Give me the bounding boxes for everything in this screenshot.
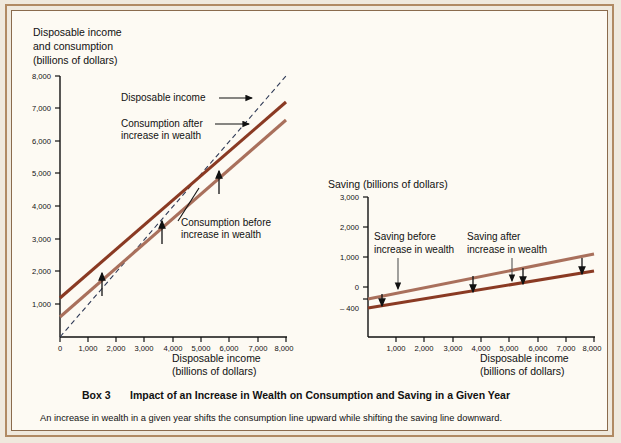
annotation-saving-after-line2: increase in wealth [467,244,547,255]
saving-shift-arrows [382,258,582,306]
saving-xtick-2000: 2,000 [414,344,433,353]
consumption-ytick-4000: 4,000 [32,202,51,211]
caption-title: Impact of an Increase in Wealth on Consu… [130,389,510,401]
annotation-disposable-income-label: Disposable income [121,92,206,103]
saving-xlabel-line2: (billions of dollars) [480,365,565,377]
consumption-ytick-3000: 3,000 [32,235,51,244]
saving-ytick-minus400: – 400 [340,304,359,313]
box-label: Box 3 [82,389,111,401]
consumption-xtick-8000: 8,000 [274,344,293,353]
consumption-xtick-2000: 2,000 [106,344,125,353]
consumption-ylabel-line3: (billions of dollars) [33,54,118,66]
saving-ytick-0: 0 [355,283,359,292]
saving-ytick-1000: 1,000 [340,253,359,262]
annotation-consumption-before-line1: Consumption before [181,217,271,228]
annotation-saving-after-line1: Saving after [467,231,521,242]
consumption-ytick-8000: 8,000 [32,72,51,81]
consumption-ytick-2000: 2,000 [32,267,51,276]
annotation-consumption-before-line2: increase in wealth [181,229,261,240]
saving-ylabel: Saving (billions of dollars) [328,178,448,190]
saving-xtick-3000: 3,000 [443,344,462,353]
saving-xlabel-line1: Disposable income [480,352,569,364]
consumption-ytick-6000: 6,000 [32,137,51,146]
consumption-xlabel-line1: Disposable income [172,352,261,364]
series-disposable-income-line [60,76,286,337]
annotation-consumption-after-line2: increase in wealth [121,130,201,141]
consumption-y-ticks: 8,000 7,000 6,000 5,000 4,000 3,000 2,00… [32,72,60,309]
saving-ytick-3000: 3,000 [340,193,359,202]
consumption-ylabel-line2: and consumption [33,40,113,52]
consumption-xlabel-line2: (billions of dollars) [172,365,257,377]
saving-xtick-1000: 1,000 [386,344,405,353]
caption-subtitle: An increase in wealth in a given year sh… [40,413,502,423]
consumption-xtick-0: 0 [58,344,62,353]
consumption-xtick-3000: 3,000 [134,344,153,353]
consumption-xtick-1000: 1,000 [78,344,97,353]
chart-consumption: Disposable income and consumption (billi… [32,26,294,377]
figure-caption: Box 3 Impact of an Increase in Wealth on… [40,389,510,423]
saving-x-ticks: 1,000 2,000 3,000 4,000 5,000 6,000 7,00… [386,337,601,353]
figure-canvas: Disposable income and consumption (billi… [0,0,621,443]
consumption-x-ticks: 0 1,000 2,000 3,000 4,000 5,000 6,000 7,… [58,337,294,353]
chart-saving: Saving (billions of dollars) 3,000 2,000… [328,178,602,377]
annotation-saving-before-line2: increase in wealth [374,244,454,255]
consumption-ytick-7000: 7,000 [32,104,51,113]
annotation-saving-before-line1: Saving before [374,231,436,242]
consumption-ytick-5000: 5,000 [32,169,51,178]
saving-y-ticks: 3,000 2,000 1,000 0 – 400 [340,193,368,313]
consumption-ylabel-line1: Disposable income [33,26,122,38]
consumption-ytick-1000: 1,000 [32,300,51,309]
annotation-consumption-after-line1: Consumption after [121,118,203,129]
saving-ytick-2000: 2,000 [340,223,359,232]
saving-xtick-8000: 8,000 [582,344,601,353]
